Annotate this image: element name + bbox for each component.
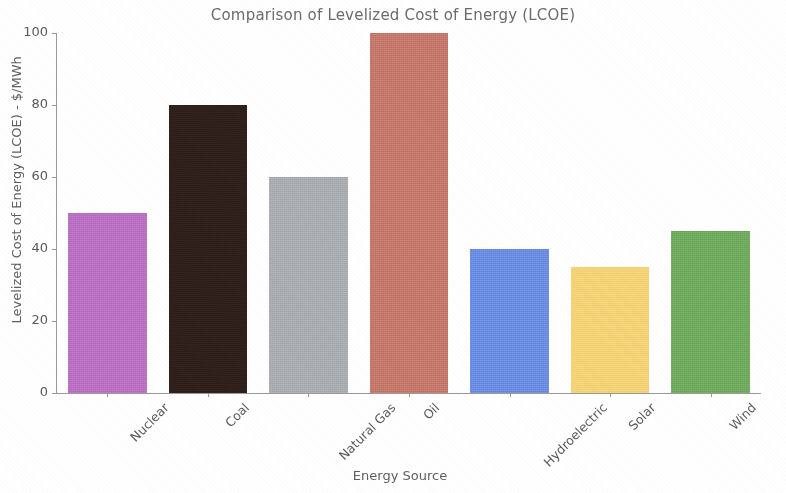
plot-area: [57, 33, 761, 393]
x-tick-label: Nuclear: [127, 400, 172, 445]
y-tick-label: 100: [23, 24, 48, 39]
y-tick: 80: [0, 105, 57, 106]
y-tick-label: 20: [31, 312, 48, 327]
y-tick: 20: [0, 321, 57, 322]
y-tick-label: 40: [31, 240, 48, 255]
bar-solar[interactable]: [571, 267, 649, 393]
bar-texture: [671, 231, 749, 393]
x-tick-label: Natural Gas: [336, 400, 399, 463]
bar-hydroelectric[interactable]: [470, 249, 548, 393]
x-tick-label: Solar: [625, 400, 658, 433]
y-tick: 60: [0, 177, 57, 178]
bar-texture: [571, 267, 649, 393]
x-tick-label: Oil: [420, 400, 442, 422]
y-tick-label: 0: [40, 384, 48, 399]
bar-texture: [169, 105, 247, 393]
bar-coal[interactable]: [169, 105, 247, 393]
bar-texture: [68, 213, 146, 393]
x-tick-mark: [510, 393, 511, 397]
bar-texture: [269, 177, 347, 393]
x-tick-mark: [208, 393, 209, 397]
y-axis-title: Levelized Cost of Energy (LCOE) - $/MWh: [9, 84, 24, 324]
x-tick-mark: [610, 393, 611, 397]
bar-texture: [370, 33, 448, 393]
chart-title: Comparison of Levelized Cost of Energy (…: [0, 6, 786, 24]
x-tick-label: Coal: [222, 400, 252, 430]
x-axis-title: Energy Source: [300, 468, 500, 483]
bar-nuclear[interactable]: [68, 213, 146, 393]
y-tick: 40: [0, 249, 57, 250]
y-tick-label: 60: [31, 168, 48, 183]
y-tick: 100: [0, 33, 57, 34]
bar-texture: [470, 249, 548, 393]
x-tick-mark: [711, 393, 712, 397]
bar-natural-gas[interactable]: [269, 177, 347, 393]
x-tick-mark: [308, 393, 309, 397]
x-tick-label: Wind: [726, 400, 759, 433]
y-tick-mark: [52, 393, 57, 394]
bar-oil[interactable]: [370, 33, 448, 393]
x-tick-mark: [409, 393, 410, 397]
bar-wind[interactable]: [671, 231, 749, 393]
y-tick: 0: [0, 393, 57, 394]
x-tick-label: Hydroelectric: [540, 400, 610, 470]
y-tick-label: 80: [31, 96, 48, 111]
x-tick-mark: [107, 393, 108, 397]
lcoe-bar-chart: Comparison of Levelized Cost of Energy (…: [0, 0, 786, 493]
